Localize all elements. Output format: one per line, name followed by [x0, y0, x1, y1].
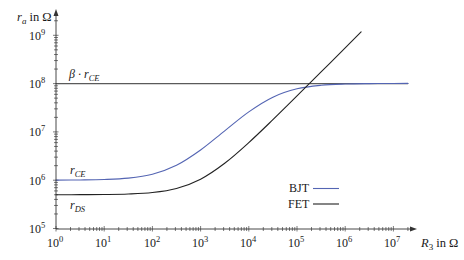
y-tick-label: 106 [29, 172, 45, 188]
y-tick-label: 105 [29, 220, 45, 236]
rce-annotation: rCE [70, 163, 86, 179]
line-chart: ra in Ω R3 in Ω 105 106 107 108 109 100 … [0, 0, 464, 260]
legend-item-fet: FET [288, 197, 339, 211]
legend-label: FET [288, 197, 310, 211]
legend-item-bjt: BJT [289, 181, 339, 195]
beta-rce-annotation: β · rCE [68, 67, 100, 83]
x-tick-label: 102 [144, 234, 160, 250]
fet-curve [56, 32, 361, 195]
y-tick-labels: 105 106 107 108 109 [29, 27, 45, 236]
legend-label: BJT [289, 181, 310, 195]
y-tick-label: 109 [29, 27, 45, 43]
x-tick-label: 105 [288, 234, 304, 250]
x-tick-labels: 100 101 102 103 104 105 106 107 [47, 234, 400, 250]
bjt-curve [56, 83, 408, 180]
x-axis-label: R3 in Ω [420, 236, 458, 252]
x-axis-arrow-icon [410, 227, 417, 232]
x-tick-label: 101 [95, 234, 111, 250]
y-axis-label: ra in Ω [17, 10, 52, 26]
y-axis-arrow-icon [54, 9, 59, 16]
x-tick-label: 107 [384, 234, 400, 250]
x-tick-label: 100 [47, 234, 63, 250]
x-tick-label: 106 [336, 234, 352, 250]
y-tick-label: 107 [29, 123, 45, 139]
rds-annotation: rDS [70, 198, 86, 214]
legend: BJT FET [288, 181, 339, 211]
x-tick-label: 103 [192, 234, 208, 250]
x-axis [56, 227, 417, 232]
y-axis [54, 9, 59, 229]
y-tick-label: 108 [29, 75, 45, 91]
x-tick-label: 104 [240, 234, 257, 250]
